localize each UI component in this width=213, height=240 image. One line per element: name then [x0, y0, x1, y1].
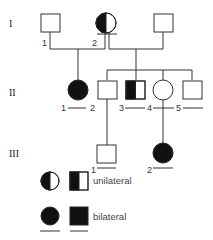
legend-bilateral-square-icon: [70, 207, 88, 225]
individual-III-2-female-bilateral: [153, 143, 173, 163]
individual-number-II-3: 3: [119, 103, 124, 113]
generation-label-I: I: [9, 18, 12, 29]
legend-unilateral-square-icon: [70, 172, 88, 190]
individual-II-2-male-unaffected: [98, 81, 117, 99]
individual-II-5-male-unaffected: [183, 81, 202, 99]
legend-label-bilateral: bilateral: [93, 211, 126, 222]
individual-II-3-male-unilateral: [126, 81, 145, 99]
individual-number-II-4: 4: [147, 103, 152, 113]
individual-number-II-2: 2: [90, 103, 95, 113]
pedigree-diagram: I II III 1 2 1 2: [0, 0, 213, 240]
individual-number-II-5: 5: [176, 103, 181, 113]
individual-number-I-1: 1: [42, 38, 47, 48]
individual-III-1-male-unaffected: [97, 145, 116, 163]
individual-I-1-male-unaffected: [41, 14, 60, 32]
legend-unilateral-circle-icon: [41, 172, 59, 190]
generation-label-III: III: [9, 148, 19, 159]
legend-bilateral-circle-icon: [41, 207, 59, 225]
individual-II-4-female-unaffected: [153, 80, 173, 100]
generation-label-II: II: [9, 87, 16, 98]
individual-number-I-2: 2: [92, 38, 97, 48]
individual-I-2-female-unilateral: [96, 13, 116, 33]
individual-II-1-female-bilateral: [68, 80, 88, 100]
marriage-line-I2-I3: [109, 32, 163, 70]
legend: unilateral bilateral: [40, 172, 132, 231]
individual-number-II-1: 1: [61, 103, 66, 113]
sibship-line-II: [107, 70, 192, 80]
individual-number-III-2: 2: [147, 165, 152, 175]
individual-number-III-1: 1: [91, 165, 96, 175]
individual-I-3-male-unaffected: [154, 14, 173, 32]
legend-label-unilateral: unilateral: [93, 175, 132, 186]
